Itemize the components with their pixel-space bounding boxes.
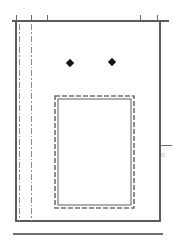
drawing-svg-surface <box>0 0 180 251</box>
engineering-drawing-canvas <box>0 0 180 251</box>
drawing-background <box>0 0 180 251</box>
